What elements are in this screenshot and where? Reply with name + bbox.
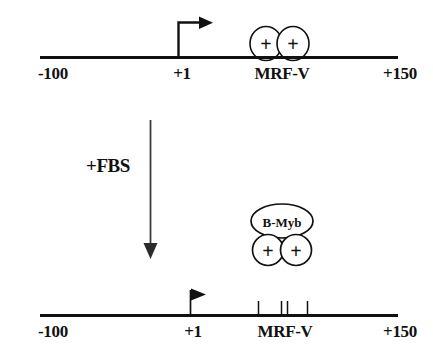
transcription-start-flag [191,289,207,316]
positive-factor-group-top: + + [250,27,309,61]
top-panel: + + [40,17,398,61]
bottom-panel: B-Myb + + [40,204,398,316]
axis-tick-label-mrfv-top: MRF-V [254,64,309,84]
treatment-arrow-head [144,243,158,259]
axis-tick-label-mrfv-bottom: MRF-V [257,322,312,342]
mrf-v-site-ticks [259,301,308,315]
positive-factor-label: + [260,33,271,55]
axis-tick-label-plus1-top: +1 [173,64,191,84]
axis-tick-label-plus150-bottom: +150 [383,322,417,342]
axis-tick-label-plus150-top: +150 [383,64,417,84]
diagram-canvas: + + B-Myb + + [0,0,433,349]
positive-factor-label: + [290,240,301,262]
axis-tick-label-plus1-bottom: +1 [184,322,202,342]
treatment-arrow [144,120,158,259]
transcription-start-arrow [179,17,214,58]
fbs-treatment-label: +FBS [86,155,130,177]
transcription-start-arrow-shaft [179,23,201,58]
transcription-start-flag-banner [191,289,206,301]
axis-tick-label-minus100-top: -100 [38,64,68,84]
positive-factor-label: + [262,240,273,262]
positive-factor-label: + [287,33,298,55]
b-myb-label: B-Myb [263,215,302,230]
axis-tick-label-minus100-bottom: -100 [38,322,68,342]
promoter-diagram: + + B-Myb + + [0,0,433,349]
transcription-start-arrow-head [199,17,213,30]
